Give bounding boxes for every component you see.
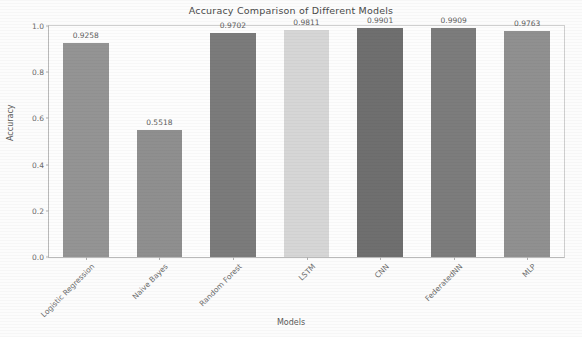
x-axis-tick-mark (527, 257, 528, 260)
y-axis-tick-mark (46, 118, 49, 119)
bar-value-label: 0.9702 (210, 21, 256, 30)
bar[interactable] (137, 130, 183, 257)
x-axis-tick-label: MLP (521, 262, 538, 279)
bar[interactable] (504, 31, 550, 257)
x-axis-tick-label: Naive Bayes (131, 262, 170, 301)
bar-group: 0.5518 (137, 26, 183, 257)
x-axis-tick-mark (233, 257, 234, 260)
bar-value-label: 0.5518 (137, 118, 183, 127)
x-axis-tick-mark (86, 257, 87, 260)
x-axis-tick-mark (307, 257, 308, 260)
bar-chart-figure: Accuracy Comparison of Different Models … (0, 0, 582, 337)
bar[interactable] (63, 43, 109, 257)
x-axis-tick-mark (380, 257, 381, 260)
bar-group: 0.9811 (284, 26, 330, 257)
x-axis-tick-label: Random Forest (197, 262, 243, 308)
bar[interactable] (284, 30, 330, 257)
x-axis-label: Models (0, 318, 582, 327)
y-axis-label: Accuracy (6, 104, 15, 141)
bar[interactable] (210, 33, 256, 257)
x-axis-tick-label: CNN (373, 262, 391, 280)
y-axis-tick-mark (46, 26, 49, 27)
y-axis-tick-label: 1.0 (32, 22, 44, 31)
y-axis-tick-label: 0.2 (32, 206, 44, 215)
x-axis-tick-label: Logistic Regression (39, 262, 96, 319)
bar[interactable] (431, 28, 477, 257)
y-axis-tick-label: 0.0 (32, 253, 44, 262)
bar-value-label: 0.9901 (357, 16, 403, 25)
bar-group: 0.9702 (210, 26, 256, 257)
plot-area: 0.00.20.40.60.81.00.9258Logistic Regress… (49, 26, 564, 257)
bar-value-label: 0.9909 (431, 16, 477, 25)
y-axis-tick-label: 0.8 (32, 68, 44, 77)
chart-title: Accuracy Comparison of Different Models (0, 5, 582, 16)
bar-value-label: 0.9258 (63, 31, 109, 40)
y-axis-tick-mark (46, 72, 49, 73)
y-axis-tick-label: 0.4 (32, 160, 44, 169)
bar[interactable] (357, 28, 403, 257)
x-axis-tick-label: LSTM (296, 262, 317, 283)
y-axis-tick-label: 0.6 (32, 114, 44, 123)
x-axis-tick-label: FederatedNN (423, 262, 464, 303)
bar-group: 0.9901 (357, 26, 403, 257)
bar-value-label: 0.9811 (284, 18, 330, 27)
x-axis-tick-mark (159, 257, 160, 260)
y-axis-tick-mark (46, 164, 49, 165)
plot-axes: 0.00.20.40.60.81.00.9258Logistic Regress… (48, 25, 565, 258)
x-axis-tick-mark (454, 257, 455, 260)
y-axis-tick-mark (46, 210, 49, 211)
bar-group: 0.9763 (504, 26, 550, 257)
bar-group: 0.9258 (63, 26, 109, 257)
bar-value-label: 0.9763 (504, 19, 550, 28)
y-axis-tick-mark (46, 257, 49, 258)
bar-group: 0.9909 (431, 26, 477, 257)
